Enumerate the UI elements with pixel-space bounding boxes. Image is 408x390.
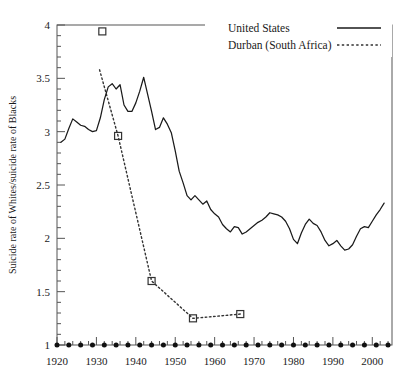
- x-axis-tick-labels: 192019301940195019601970198019902000: [46, 355, 384, 367]
- reference-line-dot: [350, 343, 355, 348]
- reference-line-dot: [256, 343, 261, 348]
- reference-line-dot: [208, 343, 213, 348]
- reference-line-dot: [185, 343, 190, 348]
- reference-line-dot: [362, 343, 367, 348]
- y-axis-ticks: [57, 25, 65, 345]
- suicide-rate-ratio-line-chart: 192019301940195019601970198019902000 11.…: [0, 0, 408, 390]
- durban-series-markers: [99, 28, 244, 322]
- y-tick-label: 2.5: [36, 179, 50, 191]
- reference-line-dot: [267, 343, 272, 348]
- reference-line-dot: [78, 343, 83, 348]
- reference-line-dot: [220, 343, 225, 348]
- reference-line-dot: [303, 343, 308, 348]
- reference-line-dot: [386, 343, 391, 348]
- reference-line-dot: [149, 343, 154, 348]
- reference-line-dot: [173, 343, 178, 348]
- reference-line-dot: [161, 343, 166, 348]
- y-tick-label: 3.5: [36, 72, 50, 84]
- reference-line-circles: [55, 343, 391, 348]
- x-tick-label: 1920: [46, 355, 69, 367]
- x-tick-label: 1970: [243, 355, 266, 367]
- reference-line-dot: [196, 343, 201, 348]
- reference-line-dot: [291, 343, 296, 348]
- y-tick-label: 3: [45, 126, 51, 138]
- x-tick-label: 1930: [85, 355, 108, 367]
- y-tick-label: 1.5: [36, 286, 50, 298]
- reference-line-dot: [338, 343, 343, 348]
- reference-line-dot: [244, 343, 249, 348]
- plot-border: [57, 25, 392, 345]
- reference-line-dot: [55, 343, 60, 348]
- legend-label-united-states: United States: [228, 22, 290, 34]
- reference-line-dot: [114, 343, 119, 348]
- x-tick-label: 1960: [204, 355, 227, 367]
- reference-line-dot: [232, 343, 237, 348]
- x-tick-label: 1990: [322, 355, 345, 367]
- reference-line-dot: [374, 343, 379, 348]
- chart-figure: 192019301940195019601970198019902000 11.…: [0, 0, 408, 390]
- x-tick-label: 1940: [125, 355, 148, 367]
- reference-line-dot: [90, 343, 95, 348]
- durban-data-point-marker: [99, 28, 106, 35]
- reference-line-dot: [279, 343, 284, 348]
- y-tick-label: 4: [45, 19, 51, 31]
- reference-line-dot: [125, 343, 130, 348]
- plot-frame: [57, 25, 392, 345]
- x-tick-label: 1980: [282, 355, 305, 367]
- reference-line-dot: [137, 343, 142, 348]
- reference-line-dot: [315, 343, 320, 348]
- legend: United States Durban (South Africa): [205, 17, 392, 57]
- y-tick-label: 2: [45, 232, 51, 244]
- y-axis-title: Suicide rate of Whites/suicide rate of B…: [7, 96, 18, 274]
- y-tick-label: 1: [45, 339, 51, 351]
- x-tick-label: 2000: [361, 355, 384, 367]
- legend-label-durban: Durban (South Africa): [228, 39, 332, 52]
- durban-series-line: [100, 70, 241, 319]
- reference-line-dot: [326, 343, 331, 348]
- reference-line-dot: [102, 343, 107, 348]
- x-tick-label: 1950: [164, 355, 187, 367]
- reference-line-dot: [66, 343, 71, 348]
- y-axis-tick-labels: 11.522.533.54: [36, 19, 50, 351]
